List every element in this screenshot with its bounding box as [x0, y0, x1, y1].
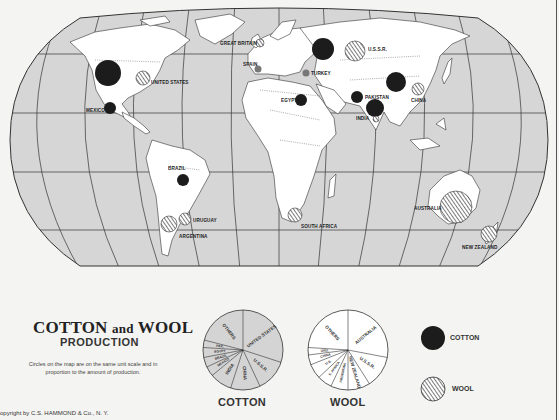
label-australia: AUSTRALIA — [414, 205, 442, 211]
cotton-circle-pakistan — [351, 91, 363, 103]
cotton-pie-chart: UNITED STATESU.S.S.R.CHINAINDIAMEXICOBRA… — [203, 310, 283, 390]
wool-circle-australia — [440, 191, 472, 223]
pie-slice-label: EGYPT — [214, 349, 227, 354]
legend-wool-symbol — [421, 377, 445, 401]
label-new-zealand: NEW ZEALAND — [462, 244, 497, 250]
label-great-britain: GREAT BRITAIN — [220, 40, 257, 46]
wool-circle-uruguay — [179, 213, 191, 225]
label-brazil: BRAZIL — [168, 165, 186, 171]
map-title: COTTON and WOOL — [33, 318, 193, 338]
label-india: INDIA — [356, 115, 369, 121]
label-ussr: U.S.S.R. — [368, 46, 387, 52]
cotton-circle-united-states — [95, 60, 121, 86]
title-cotton: COTTON — [33, 318, 108, 337]
wool-circle-new-zealand — [481, 226, 497, 242]
label-mexico: MEXICO — [86, 107, 105, 113]
label-egypt: EGYPT — [281, 97, 297, 103]
wool-circle-ussr — [345, 41, 365, 61]
pie-slice-label: CHINA — [242, 366, 248, 381]
scale-note: Circles on the map are on the same unit … — [18, 360, 168, 376]
label-china: CHINA — [411, 97, 426, 103]
wool-circle-argentina — [161, 216, 177, 232]
cotton-circle-ussr — [312, 38, 334, 60]
wool-circle-united-states — [136, 71, 150, 85]
cotton-circle-china — [386, 72, 406, 92]
cotton-circle-mexico — [104, 102, 116, 114]
cotton-circle-turkey — [303, 70, 310, 77]
wool-pie-chart: AUSTRALIAU.S.S.R.NEW ZEALANDARGENTINAS. … — [308, 310, 388, 390]
label-uruguay: URUGUAY — [193, 217, 217, 223]
legend-wool-label: WOOL — [452, 385, 474, 392]
label-united-states: UNITED STATES — [151, 79, 189, 85]
cotton-circle-brazil — [177, 174, 189, 186]
map-subtitle: PRODUCTION — [60, 336, 139, 348]
wool-circle-india — [373, 116, 379, 122]
title-and: and — [112, 321, 134, 336]
page-frame-edge — [556, 0, 557, 420]
wool-circle-south-africa — [288, 208, 302, 222]
label-south-africa: SOUTH AFRICA — [301, 223, 337, 229]
copyright-notice: opyright by C.S. HAMMOND & Co., N. Y. — [0, 410, 108, 416]
wool-pie-title: WOOL — [330, 396, 365, 408]
pie-slice-label: URU. — [321, 348, 329, 352]
title-wool: WOOL — [138, 318, 194, 337]
label-turkey: TURKEY — [311, 70, 331, 76]
world-map: UNITED STATESU.S.S.R.CHINAINDIAMEXICOBRA… — [0, 0, 559, 420]
wool-circle-great-britain — [256, 39, 264, 47]
legend-cotton-symbol — [421, 326, 445, 350]
cotton-pie-title: COTTON — [218, 396, 266, 408]
label-pakistan: PAKISTAN — [365, 94, 389, 100]
label-spain: SPAIN — [243, 61, 257, 67]
wool-circle-china — [412, 83, 424, 95]
label-argentina: ARGENTINA — [179, 233, 208, 239]
legend-cotton-label: COTTON — [450, 334, 479, 341]
